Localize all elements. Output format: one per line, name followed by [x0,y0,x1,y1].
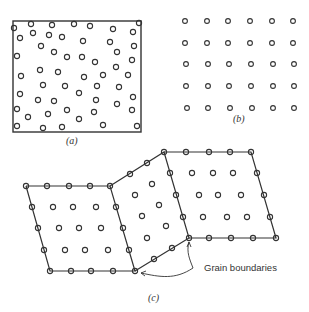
panel-c-caption: (c) [148,292,159,303]
grain-boundary-arrows [141,242,193,277]
panel-a-box [13,21,141,132]
panel-a-atoms [11,20,141,130]
panel-c-atoms [23,149,278,273]
panel-c-grains [26,152,276,271]
panel-b-caption: (b) [233,113,245,124]
panel-a-caption: (a) [66,135,78,146]
grain-boundaries-label: Grain boundaries [204,262,277,273]
panel-b-atoms [183,19,297,111]
